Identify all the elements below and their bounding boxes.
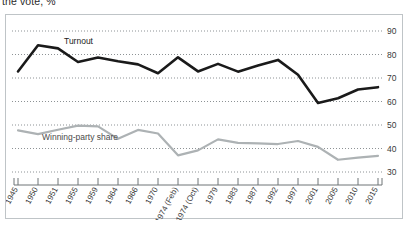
y-axis-tick-label: 90: [387, 26, 397, 36]
page-title: the vote, %: [2, 0, 56, 7]
chart-panel: 3040506070809019451950195119551959196419…: [5, 14, 403, 219]
y-axis-tick-label: 60: [387, 97, 397, 107]
x-axis-tick-label: 1950: [23, 185, 40, 205]
series-annotation-winning-party-share: Winning-party share: [42, 132, 118, 142]
series-line-winning-party-share: [18, 126, 378, 160]
x-axis-tick-label: 1979: [203, 185, 220, 205]
x-axis-tick-label: 1964: [103, 185, 120, 205]
y-axis-tick-label: 70: [387, 73, 397, 83]
series-line-turnout: [18, 45, 378, 103]
y-axis-tick-label: 30: [387, 167, 397, 177]
x-axis-tick-label: 2015: [363, 185, 380, 205]
y-axis-tick-label: 40: [387, 144, 397, 154]
plot-area: 3040506070809019451950195119551959196419…: [6, 15, 404, 220]
x-axis-tick-label: 1970: [143, 185, 160, 205]
x-axis-tick-label: 1945: [6, 185, 20, 205]
x-axis-tick-label: 1983: [223, 185, 240, 205]
y-axis-tick-label: 50: [387, 120, 397, 130]
x-axis-tick-label: 1987: [243, 185, 260, 205]
line-chart-svg: 3040506070809019451950195119551959196419…: [6, 15, 404, 220]
x-axis-tick-label: 2001: [303, 185, 320, 205]
x-axis-tick-label: 1997: [283, 185, 300, 205]
y-axis-tick-label: 80: [387, 50, 397, 60]
x-axis-tick-label: 1959: [83, 185, 100, 205]
x-axis-tick-label: 2010: [343, 185, 360, 205]
x-axis-tick-label: 1966: [123, 185, 140, 205]
series-annotation-turnout: Turnout: [64, 36, 94, 46]
chart-page: the vote, % 3040506070809019451950195119…: [0, 0, 408, 236]
x-axis-tick-label: 1992: [263, 185, 280, 205]
x-axis-tick-label: 1955: [63, 185, 80, 205]
x-axis-tick-label: 2005: [323, 185, 340, 205]
x-axis-tick-label: 1951: [43, 185, 60, 205]
